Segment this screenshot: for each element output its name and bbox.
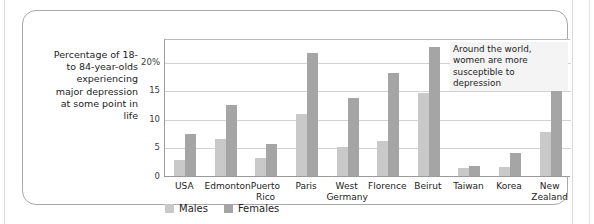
y-tick-label: 10	[131, 114, 160, 124]
legend-swatch-males	[165, 204, 174, 213]
bar-females-beirut[interactable]	[429, 47, 440, 176]
legend-label: Females	[238, 203, 279, 214]
bar-males-beirut[interactable]	[418, 93, 429, 176]
page-edge-line-right	[572, 0, 573, 224]
bar-males-florence[interactable]	[377, 141, 388, 176]
y-tick-label: 0	[131, 171, 160, 181]
y-axis-caption: Percentage of 18- to 84-year-olds experi…	[53, 49, 138, 122]
x-tick-label-west-germany: WestGermany	[326, 181, 367, 203]
bar-group	[409, 39, 450, 176]
y-axis-tick-labels: 05101520%	[131, 39, 160, 177]
bar-males-edmonton[interactable]	[215, 139, 226, 176]
x-tick-label-line: West	[336, 181, 358, 191]
page-edge-line-right-outer	[589, 0, 590, 224]
y-tick-label: 20%	[131, 57, 160, 67]
x-tick-label-florence: Florence	[367, 181, 408, 192]
bar-group	[246, 39, 287, 176]
bar-males-west-germany[interactable]	[337, 147, 348, 176]
x-tick-label-line: Florence	[368, 181, 406, 191]
x-tick-label-edmonton: Edmonton	[205, 181, 246, 192]
bar-females-edmonton[interactable]	[226, 105, 237, 176]
x-tick-label-line: Korea	[496, 181, 522, 191]
legend-item-males[interactable]: Males	[165, 203, 208, 214]
x-tick-label-line: New	[540, 181, 560, 191]
bar-group	[327, 39, 368, 176]
chart-annotation: Around the world, women are more suscept…	[450, 42, 568, 91]
legend-swatch-females	[224, 204, 233, 213]
bar-group	[368, 39, 409, 176]
bar-males-korea[interactable]	[499, 167, 510, 176]
x-tick-label-line: Paris	[295, 181, 316, 191]
x-tick-label-line: Germany	[326, 192, 367, 202]
x-tick-label-line: Taiwan	[453, 181, 484, 191]
bar-females-usa[interactable]	[185, 134, 196, 176]
x-tick-label-usa: USA	[164, 181, 205, 192]
bar-group	[287, 39, 328, 176]
x-tick-label-line: USA	[175, 181, 194, 191]
legend-label: Males	[179, 203, 208, 214]
bar-females-paris[interactable]	[307, 53, 318, 176]
bar-males-usa[interactable]	[174, 160, 185, 176]
bar-group	[165, 39, 206, 176]
x-tick-label-puerto-rico: PuertoRico	[245, 181, 286, 203]
x-tick-label-line: Edmonton	[205, 181, 251, 191]
bar-males-taiwan[interactable]	[458, 168, 469, 176]
x-tick-label-line: Rico	[256, 192, 275, 202]
x-tick-label-line: Beirut	[414, 181, 441, 191]
bar-females-puerto-rico[interactable]	[266, 144, 277, 176]
bar-females-taiwan[interactable]	[469, 166, 480, 176]
bar-males-puerto-rico[interactable]	[255, 158, 266, 176]
y-tick-label: 5	[131, 142, 160, 152]
figure-frame: Percentage of 18- to 84-year-olds experi…	[22, 10, 568, 205]
x-tick-label-taiwan: Taiwan	[448, 181, 489, 192]
bar-females-west-germany[interactable]	[348, 98, 359, 176]
x-tick-label-line: Puerto	[251, 181, 280, 191]
x-tick-label-paris: Paris	[286, 181, 327, 192]
bar-females-korea[interactable]	[510, 153, 521, 176]
bar-group	[206, 39, 247, 176]
bar-females-florence[interactable]	[388, 73, 399, 176]
chart-legend: MalesFemales	[165, 203, 279, 214]
page-edge-line-left	[4, 0, 5, 224]
x-tick-label-korea: Korea	[489, 181, 530, 192]
bar-females-new-zealand[interactable]	[551, 88, 562, 176]
legend-item-females[interactable]: Females	[224, 203, 279, 214]
bar-males-new-zealand[interactable]	[540, 132, 551, 176]
y-tick-label: 15	[131, 85, 160, 95]
bar-males-paris[interactable]	[296, 114, 307, 176]
x-tick-label-line: Zealand	[531, 192, 568, 202]
x-tick-label-new-zealand: NewZealand	[529, 181, 570, 203]
x-tick-label-beirut: Beirut	[408, 181, 449, 192]
